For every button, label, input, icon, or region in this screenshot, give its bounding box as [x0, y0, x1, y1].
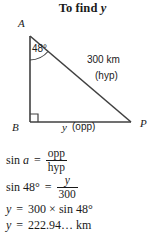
- vertex-label-p: P: [140, 118, 147, 129]
- equation-sin48: sin 48° = y 300: [6, 174, 165, 201]
- equation-4-rhs: 222.94… km: [28, 218, 91, 233]
- equation-3-variable: y: [6, 202, 11, 217]
- triangle-diagram: A B P 48° 300 km (hyp) y (opp): [0, 18, 165, 140]
- page-title: To find y: [0, 1, 165, 16]
- base-side-name-label: (opp): [72, 122, 95, 132]
- hypotenuse-side-name-label: (hyp): [95, 71, 118, 81]
- equation-result: y = 222.94… km: [6, 217, 165, 233]
- vertex-label-b: B: [12, 122, 19, 133]
- equation-2-denominator: 300: [57, 189, 78, 201]
- angle-measure-label: 48°: [32, 44, 47, 54]
- equation-1-numerator: opp: [46, 148, 67, 160]
- equation-sin-ratio: sin a = opp hyp: [6, 147, 165, 174]
- equation-3-equals: =: [16, 202, 23, 217]
- equation-2-equals: =: [45, 180, 52, 195]
- equation-1-equals: =: [34, 153, 41, 168]
- equation-1-variable: a: [23, 153, 29, 167]
- equation-1-fraction: opp hyp: [46, 148, 67, 173]
- equation-3-rhs: 300 × sin 48°: [28, 202, 93, 217]
- base-variable-label: y: [62, 122, 67, 133]
- equation-1-denominator: hyp: [46, 162, 67, 174]
- equation-4-variable: y: [6, 218, 11, 233]
- equation-1-lhs: sin a: [6, 153, 29, 168]
- equation-2-numerator: y: [63, 175, 72, 187]
- equation-4-equals: =: [16, 218, 23, 233]
- equation-solve-y: y = 300 × sin 48°: [6, 201, 165, 217]
- page-title-variable: y: [101, 1, 107, 15]
- equation-2-lhs: sin 48°: [6, 180, 40, 195]
- hypotenuse-measure-label: 300 km: [87, 55, 120, 65]
- right-angle-icon: [30, 114, 38, 122]
- worked-example-figure: To find y A B P 48° 300 km (hyp) y (opp)…: [0, 0, 165, 235]
- equation-1-sin: sin: [6, 153, 23, 167]
- vertex-label-a: A: [18, 18, 25, 29]
- equation-list: sin a = opp hyp sin 48° = y 300 y = 300 …: [6, 147, 165, 233]
- page-title-prefix: To find: [59, 1, 101, 15]
- equation-2-fraction: y 300: [57, 175, 78, 200]
